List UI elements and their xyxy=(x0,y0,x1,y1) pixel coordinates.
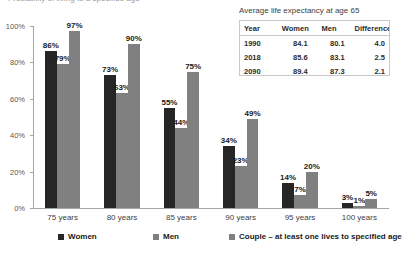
bar[interactable]: 49% xyxy=(247,119,259,208)
x-tick-label: 90 years xyxy=(225,213,256,222)
bar[interactable]: 73% xyxy=(104,75,116,208)
y-tick-mark: 100% xyxy=(30,26,33,27)
cell-women: 89.4 xyxy=(274,64,318,76)
bar-value-label: 1% xyxy=(354,196,366,205)
cell-men: 83.1 xyxy=(318,50,351,64)
bar[interactable]: 23% xyxy=(235,166,247,208)
column-header-women: Women xyxy=(274,21,318,36)
y-tick-mark: 0% xyxy=(30,208,33,209)
bar-value-label: 34% xyxy=(221,136,237,145)
legend-label: Women xyxy=(68,232,97,241)
bar-value-label: 97% xyxy=(66,21,82,30)
bar-value-label: 75% xyxy=(185,62,201,71)
cell-women: 85.6 xyxy=(274,50,318,64)
bar-value-label: 14% xyxy=(280,173,296,182)
bar-group: 86%79%97%75 years xyxy=(45,26,81,208)
legend-label: Couple – at least one lives to specified… xyxy=(239,232,402,241)
y-tick-mark: 40% xyxy=(30,135,33,136)
bar-value-label: 20% xyxy=(304,162,320,171)
bar[interactable]: 79% xyxy=(57,64,69,208)
bar[interactable]: 75% xyxy=(187,72,199,209)
y-axis-line xyxy=(33,26,34,209)
y-tick-label: 100% xyxy=(6,22,25,31)
bar[interactable]: 5% xyxy=(365,199,377,208)
legend-label: Men xyxy=(163,232,179,241)
legend-swatch-icon xyxy=(153,234,159,240)
y-tick-label: 40% xyxy=(10,131,25,140)
cell-difference: 2.1 xyxy=(351,64,389,76)
side-table-title: Average life expectancy at age 65 xyxy=(239,6,359,15)
bar-value-label: 86% xyxy=(43,41,59,50)
column-header-difference: Difference xyxy=(351,21,389,36)
y-tick-label: 20% xyxy=(10,167,25,176)
x-tick-label: 75 years xyxy=(47,213,78,222)
bar[interactable]: 3% xyxy=(342,203,354,208)
y-tick-mark: 20% xyxy=(30,172,33,173)
cell-difference: 2.5 xyxy=(351,50,389,64)
legend-item[interactable]: Men xyxy=(153,232,179,241)
chart-legend: WomenMenCouple – at least one lives to s… xyxy=(33,232,389,246)
bar[interactable]: 1% xyxy=(353,206,365,208)
cell-men: 87.3 xyxy=(318,64,351,76)
bar[interactable]: 20% xyxy=(306,172,318,208)
y-tick-mark: 80% xyxy=(30,62,33,63)
y-tick-label: 0% xyxy=(14,204,25,213)
clipped-chart-title: Probability of living to a specified age xyxy=(8,0,248,5)
column-header-year: Year xyxy=(240,21,274,36)
cell-difference: 4.0 xyxy=(351,36,389,51)
legend-item[interactable]: Couple – at least one lives to specified… xyxy=(229,232,402,241)
legend-swatch-icon xyxy=(58,234,64,240)
cell-men: 80.1 xyxy=(318,36,351,51)
x-tick-label: 95 years xyxy=(285,213,316,222)
x-tick-label: 80 years xyxy=(107,213,138,222)
bar[interactable]: 63% xyxy=(116,93,128,208)
bar-value-label: 73% xyxy=(102,65,118,74)
legend-swatch-icon xyxy=(229,234,235,240)
x-tick-label: 85 years xyxy=(166,213,197,222)
bar[interactable]: 14% xyxy=(282,183,294,208)
x-axis-line xyxy=(33,208,389,209)
x-tick-label: 100 years xyxy=(342,213,377,222)
cell-year: 2018 xyxy=(240,50,274,64)
bar[interactable]: 44% xyxy=(175,128,187,208)
cell-year: 2090 xyxy=(240,64,274,76)
bar-group: 73%63%90%80 years xyxy=(104,26,140,208)
cell-women: 84.1 xyxy=(274,36,318,51)
life-expectancy-table: Year Women Men Difference 199084.180.14.… xyxy=(239,20,390,76)
cell-year: 1990 xyxy=(240,36,274,51)
bar-value-label: 49% xyxy=(244,109,260,118)
y-tick-label: 60% xyxy=(10,94,25,103)
bar[interactable]: 7% xyxy=(294,195,306,208)
bar-value-label: 55% xyxy=(161,98,177,107)
bar[interactable]: 90% xyxy=(128,44,140,208)
table-row: 209089.487.32.1 xyxy=(240,64,389,76)
bar[interactable]: 86% xyxy=(45,51,57,208)
bar-value-label: 5% xyxy=(365,189,377,198)
table-row: 199084.180.14.0 xyxy=(240,36,389,51)
bar-value-label: 3% xyxy=(342,193,354,202)
y-tick-mark: 60% xyxy=(30,99,33,100)
bar[interactable]: 97% xyxy=(69,31,81,208)
table-header-row: Year Women Men Difference xyxy=(240,21,389,36)
bar-group: 55%44%75%85 years xyxy=(164,26,200,208)
y-tick-label: 80% xyxy=(10,58,25,67)
column-header-men: Men xyxy=(318,21,351,36)
bar-value-label: 90% xyxy=(126,34,142,43)
legend-item[interactable]: Women xyxy=(58,232,97,241)
table-row: 201885.683.12.5 xyxy=(240,50,389,64)
bar-value-label: 7% xyxy=(294,185,306,194)
